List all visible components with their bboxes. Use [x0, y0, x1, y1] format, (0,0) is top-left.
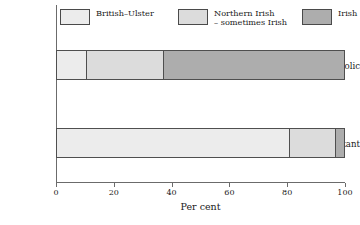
x-axis-tick-label: 40: [167, 188, 177, 197]
x-axis-title: Per cent: [56, 201, 345, 212]
legend-label-northern-irish: Northern Irish – sometimes Irish: [214, 8, 287, 27]
x-axis-tick-label: 0: [53, 188, 58, 197]
x-axis-tick-label: 20: [109, 188, 119, 197]
stacked-bar-protestant: [56, 128, 345, 158]
x-axis-tick: [56, 183, 57, 187]
x-axis-tick-label: 80: [282, 188, 292, 197]
legend-swatch-british-ulster: [60, 9, 90, 25]
legend-label-irish: Irish: [338, 8, 357, 18]
bar-segment: [163, 51, 344, 79]
x-axis-tick: [172, 183, 173, 187]
bar-segment: [57, 51, 86, 79]
chart-legend: British–Ulster Northern Irish – sometime…: [56, 8, 356, 38]
legend-item-british-ulster: British–Ulster: [60, 8, 154, 36]
x-axis-line: [56, 182, 345, 183]
x-axis-tick-label: 100: [337, 188, 352, 197]
x-axis-tick-label: 60: [224, 188, 234, 197]
x-axis-tick: [287, 183, 288, 187]
legend-swatch-northern-irish: [178, 9, 208, 25]
legend-swatch-irish: [302, 9, 332, 25]
bar-segment: [57, 129, 289, 157]
legend-item-northern-irish: Northern Irish – sometimes Irish: [178, 8, 287, 36]
x-axis-tick: [345, 183, 346, 187]
legend-item-irish: Irish: [302, 8, 357, 36]
bar-segment: [86, 51, 163, 79]
legend-label-british-ulster: British–Ulster: [96, 8, 154, 18]
stacked-bar-catholic: [56, 50, 345, 80]
stacked-bar-chart: British–Ulster Northern Irish – sometime…: [0, 0, 360, 225]
bar-segment: [335, 129, 344, 157]
x-axis-tick: [114, 183, 115, 187]
x-axis-tick: [229, 183, 230, 187]
bar-segment: [289, 129, 335, 157]
